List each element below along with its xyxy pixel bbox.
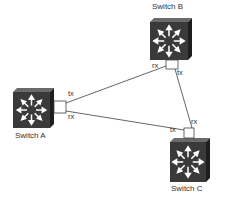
diagram-canvas: [0, 0, 227, 200]
switch-c-label: Switch C: [171, 184, 203, 193]
port-label-a-tx: tx: [68, 89, 74, 98]
port-label-b-rx: rx: [152, 61, 158, 70]
port-label-b-tx: tx: [177, 68, 183, 77]
switch-a[interactable]: [13, 88, 66, 128]
switch-b-label: Switch B: [152, 2, 183, 11]
links: [66, 66, 192, 130]
switch-c[interactable]: [170, 128, 210, 182]
link-b-c: [175, 69, 192, 128]
port-a: [54, 101, 66, 113]
port-label-c-rx: rx: [191, 117, 197, 126]
port-label-c-tx: tx: [170, 125, 176, 134]
link-a-c: [66, 111, 184, 130]
link-a-b: [66, 66, 166, 103]
port-c: [184, 128, 194, 138]
network-diagram: Switch B Switch A Switch C tx rx rx tx t…: [0, 0, 227, 200]
port-label-a-rx: rx: [68, 112, 74, 121]
switch-a-label: Switch A: [15, 131, 46, 140]
